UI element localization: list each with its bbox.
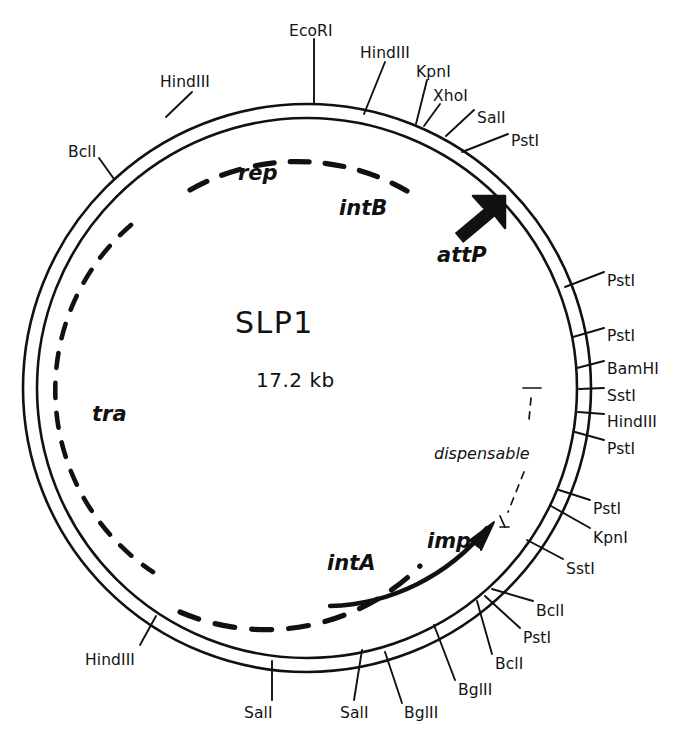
restriction-site-leader — [462, 134, 508, 152]
restriction-site-label-s5: XhoI — [433, 89, 468, 105]
restriction-site-label-s11: BamHI — [607, 362, 659, 378]
restriction-site-leader — [485, 596, 520, 628]
restriction-site-label-s23: SalI — [340, 706, 369, 722]
restriction-site-leader — [424, 104, 440, 126]
plasmid-map-figure: SLP1 17.2 kb repintBattPtraintAimpdispen… — [0, 0, 694, 734]
restriction-site-label-s15: PstI — [593, 502, 621, 518]
restriction-site-leader — [354, 650, 362, 700]
restriction-site-label-s14: PstI — [607, 442, 635, 458]
plasmid-size-label: 17.2 kb — [256, 370, 335, 390]
restriction-site-label-s10: PstI — [607, 329, 635, 345]
restriction-site-label-s17: SstI — [566, 562, 595, 578]
gene-label-intA: intA — [327, 553, 375, 574]
restriction-site-label-s25: HindIII — [85, 653, 135, 669]
restriction-site-label-s24: SalI — [244, 706, 273, 722]
restriction-site-label-s6: SalI — [477, 111, 506, 127]
gene-label-imp: imp — [427, 531, 471, 552]
restriction-site-label-s19: PstI — [523, 631, 551, 647]
restriction-site-leader — [575, 432, 604, 440]
gene-label-intB: intB — [339, 198, 387, 219]
restriction-site-leader — [573, 328, 604, 337]
page-title: SLP1 — [235, 308, 314, 338]
gene-label-rep: rep — [238, 163, 278, 184]
tra-dashed-arc — [55, 225, 153, 572]
restriction-site-label-s13: HindIII — [607, 415, 657, 431]
restriction-site-label-s8: BclI — [68, 145, 96, 161]
restriction-site-label-s3: HindIII — [360, 46, 410, 62]
restriction-site-label-s2: EcoRI — [289, 24, 333, 40]
restriction-site-label-s1: HindIII — [160, 75, 210, 91]
restriction-site-leader — [559, 490, 590, 500]
restriction-site-label-s4: KpnI — [416, 65, 451, 81]
restriction-site-label-s7: PstI — [511, 134, 539, 150]
gene-label-tra: tra — [92, 404, 127, 425]
gene-label-attP: attP — [437, 245, 487, 266]
attP-arrow — [459, 196, 505, 238]
restriction-site-label-s16: KpnI — [593, 531, 628, 547]
restriction-site-leader — [416, 80, 427, 124]
restriction-site-label-s22: BglII — [404, 706, 438, 722]
restriction-site-leader — [578, 412, 604, 414]
restriction-site-label-s12: SstI — [607, 389, 636, 405]
restriction-site-label-s9: PstI — [607, 274, 635, 290]
restriction-site-label-s21: BglII — [458, 683, 492, 699]
restriction-site-leader — [446, 110, 474, 136]
gene-label-dispensable: dispensable — [434, 446, 530, 462]
restriction-site-leader — [166, 92, 192, 117]
restriction-site-label-s18: BclI — [536, 604, 564, 620]
restriction-site-leader — [99, 158, 114, 179]
restriction-site-leader — [364, 62, 385, 114]
plasmid-map-canvas — [0, 0, 694, 734]
restriction-site-label-s20: BclI — [495, 657, 523, 673]
restriction-site-leader — [579, 388, 604, 389]
rep-intB-dashed-arc — [190, 162, 407, 191]
